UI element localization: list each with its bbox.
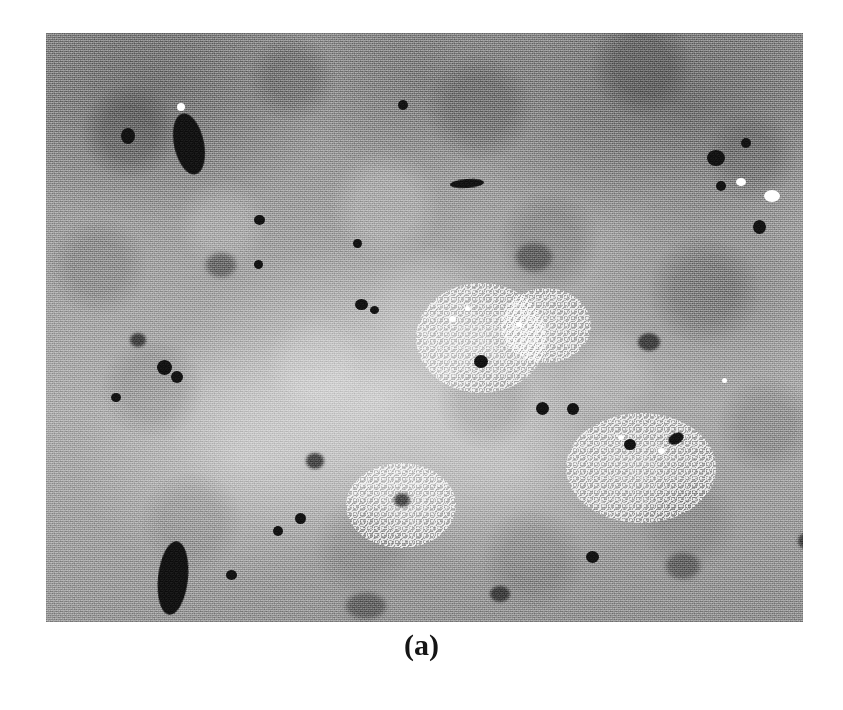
figure-caption: (a) (0, 628, 843, 662)
figure-panel: (a) (0, 0, 843, 710)
micrograph-image (46, 33, 803, 622)
micrograph-fine-grain-layer (46, 33, 803, 622)
